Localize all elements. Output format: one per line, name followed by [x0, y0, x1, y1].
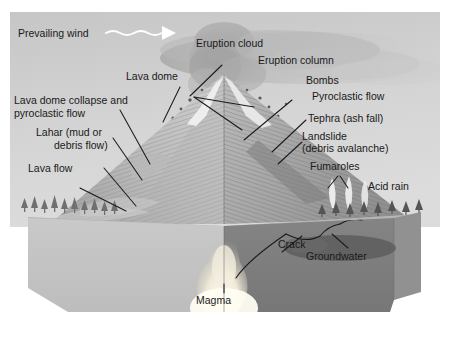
label-eruption-cloud: Eruption cloud: [196, 37, 263, 49]
label-crack: Crack: [278, 238, 306, 250]
label-acid-rain: Acid rain: [368, 180, 409, 192]
volcano-hazards-figure: Prevailing wind Eruption cloud Eruption …: [10, 12, 440, 327]
label-groundwater: Groundwater: [306, 250, 367, 262]
ground-block-graphic: [28, 212, 421, 327]
label-magma: Magma: [196, 294, 231, 306]
label-lava-dome: Lava dome: [126, 70, 178, 82]
label-dome-collapse-line2: pyroclastic flow: [14, 107, 86, 119]
label-lahar-line2: debris flow): [54, 139, 108, 151]
label-pyroclastic-flow: Pyroclastic flow: [312, 90, 385, 102]
block-face-left: [28, 218, 224, 312]
block-face-side: [394, 212, 421, 300]
label-fumaroles: Fumaroles: [310, 160, 360, 172]
label-lahar-line1: Lahar (mud or: [36, 126, 102, 138]
volcano-diagram-svg: Prevailing wind Eruption cloud Eruption …: [10, 12, 440, 327]
label-prevailing-wind: Prevailing wind: [18, 27, 89, 39]
label-landslide-line1: Landslide: [302, 130, 347, 142]
diagram-stage: Prevailing wind Eruption cloud Eruption …: [0, 0, 450, 338]
label-landslide-line2: (debris avalanche): [302, 142, 388, 154]
label-tephra: Tephra (ash fall): [308, 112, 383, 124]
label-dome-collapse-line1: Lava dome collapse and: [14, 94, 128, 106]
label-eruption-column: Eruption column: [258, 54, 334, 66]
label-lava-flow: Lava flow: [28, 162, 73, 174]
label-bombs: Bombs: [306, 74, 339, 86]
